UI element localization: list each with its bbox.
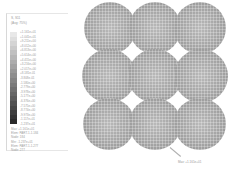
legend-value: -3.808e-01 — [20, 76, 36, 81]
legend-value: +1.161e+01 — [20, 30, 36, 35]
legend-color-bar — [10, 32, 17, 124]
legend-value: -8.774e+00 — [20, 108, 36, 113]
sphere-mesh — [174, 98, 226, 150]
sphere-mesh — [83, 98, 135, 150]
sphere-mesh — [174, 2, 226, 54]
legend-title: S, S11 — [11, 16, 20, 20]
sphere-mesh — [174, 49, 228, 103]
legend-min-node: Node: 277 — [11, 148, 25, 152]
legend-max-node: Node: 184 — [11, 135, 25, 139]
contour-legend: S, S11 (Avg: 75%) +1.161e+01+1.041e+01+9… — [6, 13, 68, 151]
max-annotation: Max: +1.161e+01 — [178, 160, 201, 164]
legend-swatch — [10, 119, 17, 124]
contour-plot-viewport[interactable] — [82, 2, 228, 152]
legend-value: +5.614e+00 — [20, 53, 36, 58]
legend-value: -6.376e+00 — [20, 99, 36, 104]
legend-value: -1.237e+01 — [20, 122, 36, 127]
legend-values: +1.161e+01+1.041e+01+9.211e+00+8.012e+00… — [20, 30, 36, 126]
legend-subtitle: (Avg: 75%) — [11, 21, 27, 25]
